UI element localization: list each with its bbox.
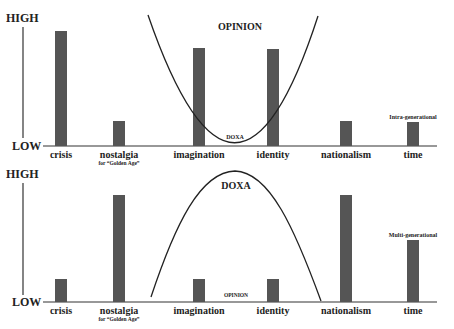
bottom-cat-nationalism: nationalism [321,305,372,316]
bottom-bar-identity [267,279,279,302]
bottom-cat-crisis: crisis [50,305,72,316]
bottom-cat-imagination: imagination [173,305,225,316]
top-opinion-curve [148,15,318,143]
doxa-opinion-chart: HIGH LOW OPINION DOXA Intra-generational… [0,0,454,329]
top-low-label: LOW [12,139,41,153]
top-high-label: HIGH [6,11,39,25]
top-bar-nostalgia [113,121,125,146]
top-doxa-label: DOXA [226,134,244,140]
bottom-bar-time [407,240,419,302]
top-cat-nationalism: nationalism [321,149,372,160]
bottom-bar-crisis [55,279,67,302]
bottom-high-label: HIGH [6,167,39,181]
top-bar-imagination [193,48,205,146]
bottom-cat-time: time [404,305,423,316]
top-opinion-label: OPINION [218,21,263,32]
top-time-note: Intra-generational [389,114,437,120]
bottom-bar-nationalism [340,195,352,302]
bottom-low-label: LOW [12,295,41,309]
bottom-cat-identity: identity [257,305,290,316]
bottom-doxa-label: DOXA [221,180,251,191]
top-cat-nostalgia: nostalgia [100,149,138,160]
top-chart: HIGH LOW OPINION DOXA Intra-generational… [6,11,437,166]
top-cat-crisis: crisis [50,149,72,160]
top-cat-identity: identity [257,149,290,160]
top-cat-nostalgia-sub: for “Golden Age” [98,160,139,166]
bottom-bar-nostalgia [113,195,125,302]
bottom-opinion-label: OPINION [224,292,248,298]
bottom-time-note: Multi-generational [389,232,438,238]
top-cat-time: time [404,149,423,160]
bottom-chart: HIGH LOW DOXA OPINION Multi-generational… [6,167,437,322]
top-bar-time [407,122,419,146]
top-bar-crisis [55,31,67,146]
bottom-bar-imagination [193,279,205,302]
top-bar-nationalism [340,121,352,146]
bottom-cat-nostalgia: nostalgia [100,305,138,316]
top-cat-imagination: imagination [173,149,225,160]
top-bar-identity [267,49,279,146]
bottom-cat-nostalgia-sub: for “Golden Age” [98,316,139,322]
